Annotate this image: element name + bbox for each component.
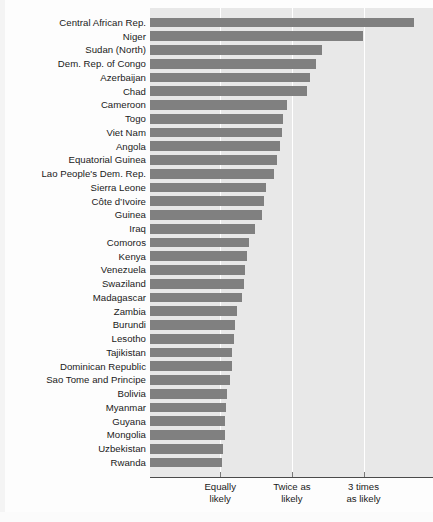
bar[interactable] <box>150 45 322 55</box>
bar[interactable] <box>150 265 245 275</box>
bar-row[interactable] <box>150 84 433 98</box>
bar[interactable] <box>150 128 282 138</box>
bar-row[interactable] <box>150 139 433 153</box>
bar[interactable] <box>150 444 223 454</box>
bar-row[interactable] <box>150 29 433 43</box>
bar[interactable] <box>150 224 255 234</box>
bar[interactable] <box>150 31 363 41</box>
category-label: Dem. Rep. of Congo <box>0 58 146 69</box>
bar-row[interactable] <box>150 71 433 85</box>
bars <box>150 8 433 477</box>
category-label: Lao People's Dem. Rep. <box>0 168 146 179</box>
category-label: Mongolia <box>0 429 146 440</box>
category-label: Niger <box>0 31 146 42</box>
bar-row[interactable] <box>150 291 433 305</box>
category-label: Dominican Republic <box>0 361 146 372</box>
x-axis-tick <box>364 472 365 477</box>
bar-row[interactable] <box>150 401 433 415</box>
bar[interactable] <box>150 196 264 206</box>
bar[interactable] <box>150 320 235 330</box>
bar[interactable] <box>150 375 230 385</box>
bar-row[interactable] <box>150 249 433 263</box>
category-label: Burundi <box>0 319 146 330</box>
bar[interactable] <box>150 169 274 179</box>
category-label: Kenya <box>0 251 146 262</box>
bar[interactable] <box>150 18 414 28</box>
bar-row[interactable] <box>150 442 433 456</box>
category-label: Rwanda <box>0 457 146 468</box>
bar-row[interactable] <box>150 332 433 346</box>
category-label: Angola <box>0 141 146 152</box>
bar[interactable] <box>150 210 262 220</box>
category-label: Guyana <box>0 416 146 427</box>
bar[interactable] <box>150 251 247 261</box>
bar[interactable] <box>150 279 244 289</box>
bar[interactable] <box>150 430 225 440</box>
bar[interactable] <box>150 59 316 69</box>
bar-row[interactable] <box>150 222 433 236</box>
bar-row[interactable] <box>150 318 433 332</box>
category-label: Zambia <box>0 306 146 317</box>
category-label: Comoros <box>0 237 146 248</box>
category-label: Swaziland <box>0 278 146 289</box>
bar[interactable] <box>150 293 242 303</box>
bar-row[interactable] <box>150 346 433 360</box>
bar-row[interactable] <box>150 43 433 57</box>
x-axis-tick-label: 3 timesas likely <box>318 481 410 504</box>
page-bottom-margin <box>0 512 433 522</box>
bar-row[interactable] <box>150 194 433 208</box>
category-label: Azerbaijan <box>0 72 146 83</box>
bar-row[interactable] <box>150 181 433 195</box>
bar[interactable] <box>150 183 266 193</box>
category-label: Guinea <box>0 209 146 220</box>
category-label: Côte d’Ivoire <box>0 196 146 207</box>
category-axis-labels: Central African Rep.NigerSudan (North)De… <box>0 8 146 477</box>
category-label: Myanmar <box>0 402 146 413</box>
bar-row[interactable] <box>150 428 433 442</box>
bar[interactable] <box>150 114 283 124</box>
bar[interactable] <box>150 403 226 413</box>
bar[interactable] <box>150 100 287 110</box>
bar-chart: Central African Rep.NigerSudan (North)De… <box>0 0 433 522</box>
bar[interactable] <box>150 155 277 165</box>
bar-row[interactable] <box>150 153 433 167</box>
bar-row[interactable] <box>150 112 433 126</box>
bar[interactable] <box>150 86 307 96</box>
category-label: Lesotho <box>0 333 146 344</box>
bar-row[interactable] <box>150 373 433 387</box>
bar-row[interactable] <box>150 304 433 318</box>
bar-row[interactable] <box>150 208 433 222</box>
bar-row[interactable] <box>150 126 433 140</box>
bar-row[interactable] <box>150 263 433 277</box>
bar[interactable] <box>150 458 222 468</box>
bar[interactable] <box>150 306 237 316</box>
bar-row[interactable] <box>150 236 433 250</box>
bar[interactable] <box>150 361 232 371</box>
bar-row[interactable] <box>150 359 433 373</box>
bar[interactable] <box>150 334 234 344</box>
bar-row[interactable] <box>150 57 433 71</box>
category-label: Iraq <box>0 223 146 234</box>
bar[interactable] <box>150 416 225 426</box>
bar-row[interactable] <box>150 414 433 428</box>
bar[interactable] <box>150 73 310 83</box>
bar-row[interactable] <box>150 98 433 112</box>
x-axis-tick-label-line1: 3 times <box>318 481 410 493</box>
bar[interactable] <box>150 238 249 248</box>
category-label: Central African Rep. <box>0 17 146 28</box>
category-label: Tajikistan <box>0 347 146 358</box>
category-label: Sudan (North) <box>0 44 146 55</box>
bar[interactable] <box>150 389 227 399</box>
category-label: Madagascar <box>0 292 146 303</box>
bar-row[interactable] <box>150 16 433 30</box>
bar-row[interactable] <box>150 387 433 401</box>
bar-row[interactable] <box>150 456 433 470</box>
bar-row[interactable] <box>150 277 433 291</box>
category-label: Venezuela <box>0 264 146 275</box>
bar-row[interactable] <box>150 167 433 181</box>
bar[interactable] <box>150 348 232 358</box>
category-label: Bolivia <box>0 388 146 399</box>
plot-area <box>150 8 433 477</box>
bar[interactable] <box>150 141 280 151</box>
category-label: Uzbekistan <box>0 443 146 454</box>
